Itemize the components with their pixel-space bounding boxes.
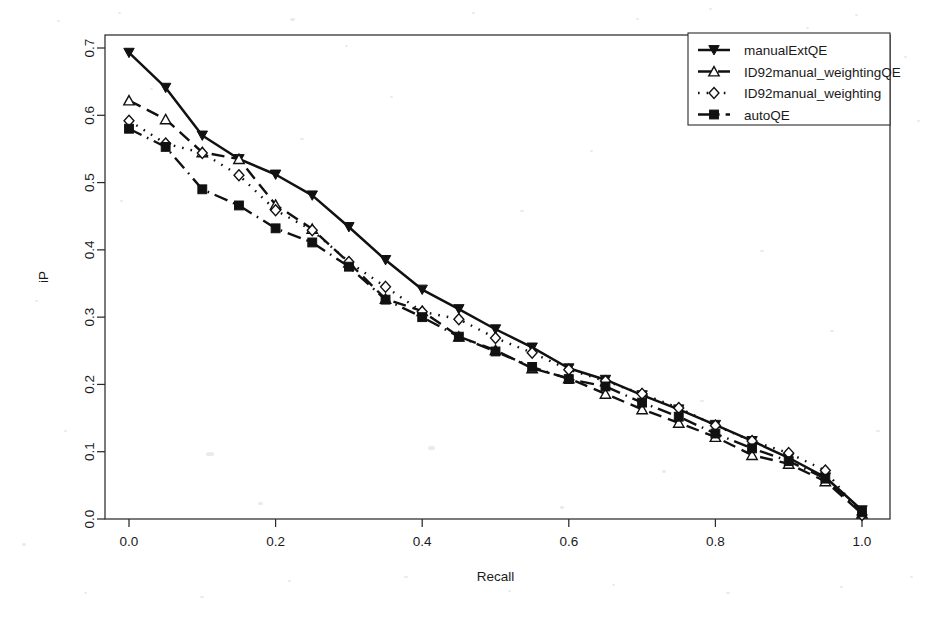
y-axis-tick-label: 0.4 — [82, 240, 97, 259]
y-axis-tick-label: 0.7 — [82, 39, 97, 58]
marker-square — [601, 382, 610, 391]
marker-square — [821, 474, 830, 483]
marker-square — [784, 457, 793, 466]
x-axis-title: Recall — [477, 569, 515, 584]
marker-square — [271, 224, 280, 233]
marker-square — [161, 142, 170, 151]
marker-square — [381, 295, 390, 304]
marker-square — [528, 363, 537, 372]
marker-square — [235, 201, 244, 210]
marker-square — [454, 332, 463, 341]
y-axis-tick-label: 0.2 — [82, 375, 97, 394]
x-axis-tick-label: 0.8 — [706, 534, 725, 549]
legend-label: manualExtQE — [744, 43, 827, 58]
legend-layer: manualExtQEID92manual_weightingQEID92man… — [688, 33, 901, 125]
y-axis-tick-label: 0.6 — [82, 106, 97, 125]
marker-square — [564, 375, 573, 384]
x-axis-tick-label: 0.2 — [266, 534, 285, 549]
marker-square — [308, 238, 317, 247]
y-axis-tick-label: 0.5 — [82, 173, 97, 192]
recall-precision-line-chart: manualExtQEID92manual_weightingQEID92man… — [0, 0, 935, 617]
marker-square — [858, 508, 867, 517]
x-axis-tick-label: 0.4 — [413, 534, 432, 549]
legend-label: autoQE — [744, 108, 790, 123]
y-axis-title: iP — [36, 271, 51, 283]
marker-square — [710, 110, 719, 119]
x-axis-tick-label: 0.0 — [120, 534, 139, 549]
figure-canvas: manualExtQEID92manual_weightingQEID92man… — [0, 0, 935, 617]
marker-square — [711, 429, 720, 438]
marker-square — [674, 412, 683, 421]
y-axis-tick-label: 0.0 — [82, 510, 97, 529]
x-axis-tick-label: 0.6 — [559, 534, 578, 549]
marker-square — [638, 398, 647, 407]
marker-square — [418, 313, 427, 322]
legend-label: ID92manual_weighting — [744, 86, 881, 101]
x-axis-tick-label: 1.0 — [853, 534, 872, 549]
marker-square — [125, 124, 134, 133]
marker-square — [491, 347, 500, 356]
marker-square — [748, 444, 757, 453]
marker-square — [344, 262, 353, 271]
legend-label: ID92manual_weightingQE — [744, 65, 901, 80]
marker-square — [198, 185, 207, 194]
y-axis-tick-label: 0.3 — [82, 308, 97, 327]
y-axis-tick-label: 0.1 — [82, 442, 97, 461]
